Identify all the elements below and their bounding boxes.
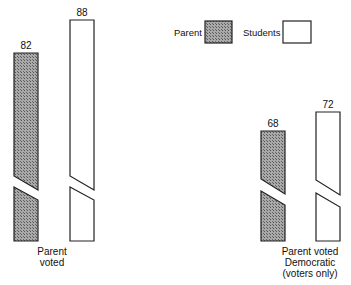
legend-swatch-parent — [205, 21, 232, 43]
category-label-line: Parent — [30, 246, 74, 257]
value-label-students-democratic: 72 — [313, 99, 343, 110]
category-label-parent-voted: Parent voted — [30, 246, 74, 268]
category-label-line: Parent voted — [270, 246, 350, 257]
bar-students-democratic — [316, 112, 340, 241]
value-label-parent-democratic: 68 — [258, 118, 288, 129]
legend-swatch-students — [283, 21, 311, 43]
legend-label-parent: Parent — [174, 27, 202, 38]
chart-canvas — [0, 0, 351, 285]
category-label-line: Democratic — [270, 257, 350, 268]
category-label-line: voted — [30, 257, 74, 268]
bar-parent-voted — [14, 53, 38, 241]
bar-students-voted — [70, 20, 94, 241]
bar-parent-democratic — [261, 131, 285, 241]
legend-label-students: Students — [243, 27, 281, 38]
category-label-line: (voters only) — [270, 268, 350, 279]
value-label-parent-voted: 82 — [11, 40, 41, 51]
value-label-students-voted: 88 — [67, 7, 97, 18]
category-label-parent-democratic: Parent voted Democratic (voters only) — [270, 246, 350, 279]
